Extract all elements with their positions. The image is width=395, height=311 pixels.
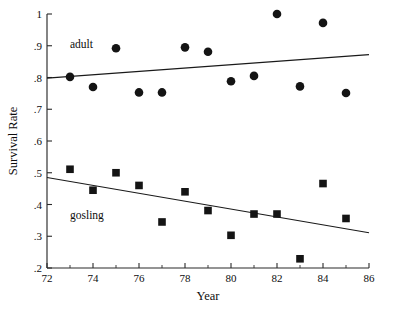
y-tick-label-.2: .2 [34, 262, 42, 274]
data-point-gosling-81 [250, 210, 258, 218]
y-tick-label-.8: .8 [34, 72, 43, 84]
y-tick-label-.6: .6 [34, 135, 43, 147]
y-tick-label-.5: .5 [34, 167, 43, 179]
data-point-adult-82 [273, 10, 282, 19]
data-point-gosling-78 [181, 188, 189, 196]
data-point-adult-84 [319, 19, 328, 28]
y-tick-label-1: 1 [37, 8, 43, 20]
x-tick-label-82: 82 [272, 272, 283, 284]
x-tick-label-78: 78 [180, 272, 192, 284]
data-point-gosling-75 [112, 169, 120, 177]
chart-canvas: 7274767880828486.2.3.4.5.6.7.8.91adultgo… [0, 0, 395, 311]
y-tick-label-.9: .9 [34, 40, 43, 52]
data-point-adult-80 [227, 77, 236, 86]
x-tick-label-80: 80 [226, 272, 238, 284]
data-point-adult-74 [89, 83, 98, 92]
data-point-adult-83 [296, 82, 305, 91]
data-point-adult-81 [250, 72, 259, 81]
series-label-gosling: gosling [70, 209, 104, 222]
data-point-gosling-79 [204, 207, 212, 215]
data-point-gosling-80 [227, 231, 235, 239]
data-point-gosling-77 [158, 218, 166, 226]
data-point-gosling-76 [135, 182, 143, 190]
data-point-adult-77 [158, 88, 167, 97]
data-point-gosling-83 [296, 255, 304, 263]
data-point-adult-79 [204, 47, 213, 56]
y-axis-title: Survival Rate [6, 106, 20, 175]
y-tick-label-.7: .7 [34, 103, 43, 115]
data-point-adult-85 [342, 89, 351, 98]
x-tick-label-72: 72 [42, 272, 53, 284]
x-tick-label-84: 84 [318, 272, 330, 284]
data-point-adult-75 [112, 44, 121, 53]
data-point-gosling-73 [66, 165, 74, 173]
y-tick-label-.4: .4 [34, 199, 43, 211]
trendline-adult [47, 55, 369, 78]
data-point-gosling-74 [89, 186, 97, 194]
data-point-gosling-85 [342, 215, 350, 223]
x-tick-label-76: 76 [134, 272, 146, 284]
x-tick-label-86: 86 [364, 272, 376, 284]
x-axis-title: Year [196, 289, 220, 303]
data-point-adult-73 [66, 73, 75, 82]
data-point-adult-76 [135, 88, 144, 97]
data-point-gosling-82 [273, 210, 281, 218]
data-point-adult-78 [181, 43, 190, 52]
x-tick-label-74: 74 [88, 272, 100, 284]
series-label-adult: adult [70, 38, 94, 50]
y-tick-label-.3: .3 [34, 230, 43, 242]
survival-rate-scatter-chart: 7274767880828486.2.3.4.5.6.7.8.91adultgo… [0, 0, 395, 311]
data-point-gosling-84 [319, 180, 327, 188]
